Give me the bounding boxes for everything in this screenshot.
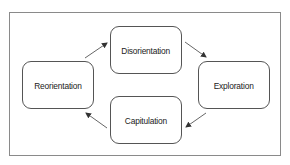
- arrow-exploration-to-capitulation: [186, 113, 206, 127]
- node-capitulation: Capitulation: [110, 96, 182, 144]
- arrow-capitulation-to-reorientation: [86, 113, 107, 128]
- node-disorientation: Disorientation: [110, 26, 182, 74]
- arrow-disorientation-to-exploration: [185, 42, 206, 57]
- node-reorientation: Reorientation: [22, 61, 94, 109]
- node-label: Reorientation: [34, 80, 81, 91]
- node-label: Exploration: [214, 80, 254, 91]
- node-label: Disorientation: [122, 45, 171, 56]
- node-exploration: Exploration: [198, 61, 270, 109]
- node-label: Capitulation: [125, 115, 167, 126]
- arrow-reorientation-to-disorientation: [85, 43, 107, 58]
